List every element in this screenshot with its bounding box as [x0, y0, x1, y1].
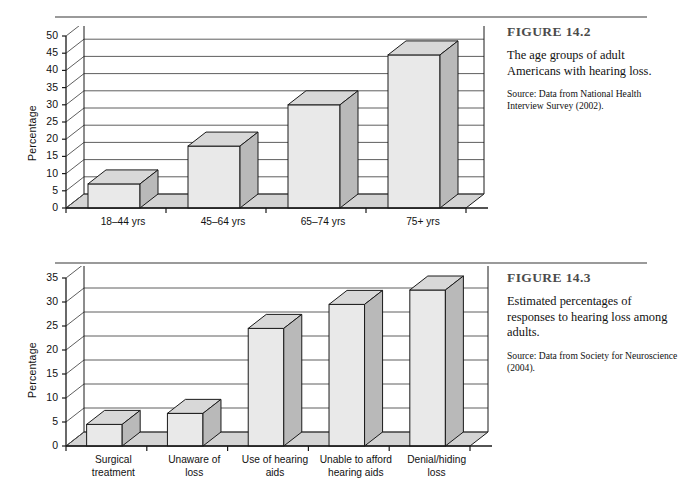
bar-3	[388, 41, 458, 208]
figure-14-2-source: Source: Data from National Health Interv…	[507, 88, 679, 113]
bar-front-face	[87, 424, 123, 446]
y-tick-label: 10	[32, 167, 58, 179]
y-tick-label: 20	[32, 132, 58, 144]
grid-depth-line	[66, 74, 84, 88]
figure-14-2-block: Percentage 0510152025303540455018–44 yrs…	[0, 0, 683, 246]
figure-14-3-caption: FIGURE 14.3 Estimated percentages of res…	[507, 270, 679, 374]
x-tick-label: 65–74 yrs	[273, 216, 373, 229]
plot1-svg	[26, 26, 506, 226]
bar-4	[410, 276, 464, 446]
y-tick-label: 50	[32, 29, 58, 41]
grid-depth-line	[66, 160, 84, 174]
bar-0	[88, 170, 158, 208]
grid-depth-line	[66, 312, 84, 326]
grid-depth-line	[66, 56, 84, 70]
grid-depth-line	[66, 125, 84, 139]
y-tick-label: 10	[32, 391, 58, 403]
bar-2	[248, 314, 302, 446]
figure-14-3-block: Percentage 05101520253035Surgical treatm…	[0, 246, 683, 483]
bar-front-face	[248, 328, 284, 446]
y-tick-label: 15	[32, 367, 58, 379]
bar-side-face	[284, 314, 302, 446]
grid-depth-line	[66, 39, 84, 53]
bar-front-face	[410, 290, 446, 446]
grid-depth-line	[66, 91, 84, 105]
grid-depth-line	[66, 336, 84, 350]
grid-depth-line	[66, 108, 84, 122]
figure-14-2-title: FIGURE 14.2	[507, 24, 679, 40]
bar-1	[188, 132, 258, 208]
grid-depth-line	[66, 266, 84, 278]
y-tick-label: 0	[32, 201, 58, 213]
y-tick-label: 15	[32, 149, 58, 161]
figure-14-3-source: Source: Data from Society for Neuroscien…	[507, 350, 679, 375]
y-tick-label: 40	[32, 63, 58, 75]
grid-depth-line	[66, 360, 84, 374]
bar-front-face	[167, 413, 203, 446]
figure-14-2-caption: FIGURE 14.2 The age groups of adult Amer…	[507, 24, 679, 113]
y-tick-label: 5	[32, 184, 58, 196]
x-tick-label: 45–64 yrs	[173, 216, 273, 229]
bar-side-face	[340, 91, 358, 208]
chart-14-2: Percentage 0510152025303540455018–44 yrs…	[26, 26, 496, 241]
plot2-svg	[26, 266, 506, 466]
bar-side-face	[365, 290, 383, 446]
figure-separator-rule	[55, 16, 647, 18]
y-tick-label: 30	[32, 295, 58, 307]
x-tick-label: 75+ yrs	[373, 216, 473, 229]
figure-14-3-title: FIGURE 14.3	[507, 270, 679, 286]
textbook-page: Percentage 0510152025303540455018–44 yrs…	[0, 0, 683, 483]
bar-front-face	[188, 146, 240, 208]
grid-depth-line	[66, 26, 84, 36]
bar-front-face	[288, 105, 340, 208]
y-tick-label: 25	[32, 319, 58, 331]
x-tick-label: Denial/hiding loss	[387, 454, 487, 479]
bar-side-face	[240, 132, 258, 208]
y-tick-label: 35	[32, 271, 58, 283]
y-tick-label: 45	[32, 46, 58, 58]
grid-depth-line	[66, 408, 84, 422]
x-tick-label: 18–44 yrs	[73, 216, 173, 229]
grid-depth-line	[66, 288, 84, 302]
grid-depth-line	[66, 142, 84, 156]
y-tick-label: 35	[32, 81, 58, 93]
y-tick-label: 0	[32, 439, 58, 451]
grid-depth-line	[66, 177, 84, 191]
bar-front-face	[329, 304, 365, 446]
chart-14-3: Percentage 05101520253035Surgical treatm…	[26, 266, 496, 476]
y-tick-label: 30	[32, 98, 58, 110]
figure-14-3-description: Estimated percentages of responses to he…	[507, 294, 679, 341]
y-tick-label: 20	[32, 343, 58, 355]
bar-front-face	[388, 55, 440, 208]
grid-depth-line	[66, 384, 84, 398]
y-tick-label: 25	[32, 115, 58, 127]
bar-3	[329, 290, 383, 446]
y-tick-label: 5	[32, 415, 58, 427]
bar-side-face	[440, 41, 458, 208]
bar-front-face	[88, 184, 140, 208]
bar-2	[288, 91, 358, 208]
figure-14-2-description: The age groups of adult Americans with h…	[507, 48, 679, 79]
bar-side-face	[445, 276, 463, 446]
figure-separator-rule	[55, 262, 647, 264]
